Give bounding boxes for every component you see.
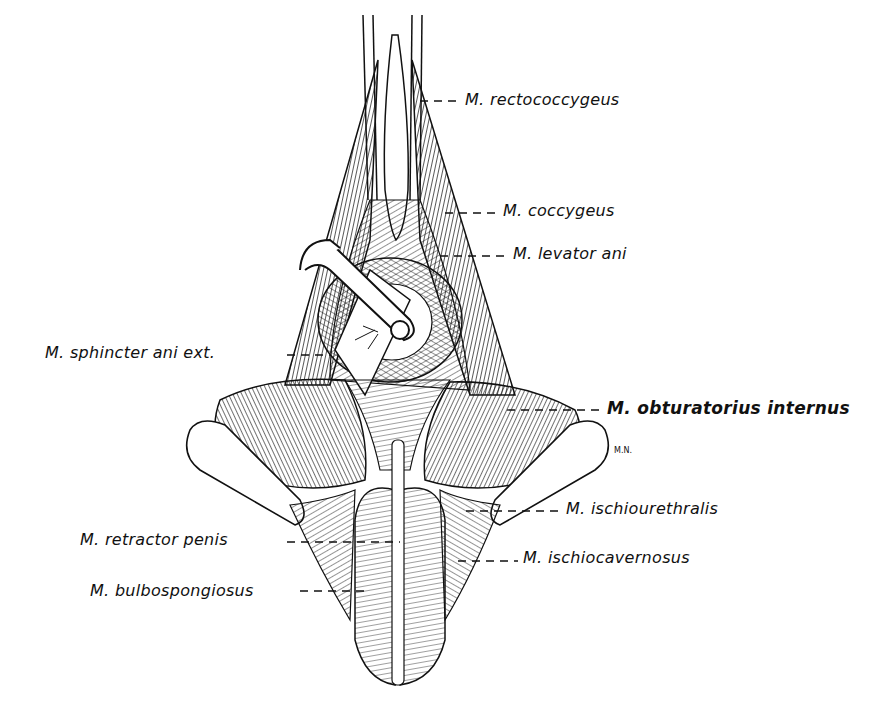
artist-signature: M.N. bbox=[614, 446, 632, 455]
anatomical-illustration bbox=[0, 0, 895, 726]
ischiocavernosus-right bbox=[440, 490, 500, 620]
label-sphincter-ani-ext: M. sphincter ani ext. bbox=[45, 345, 215, 361]
label-obturatorius-internus: M. obturatorius internus bbox=[607, 400, 850, 417]
bulbospongiosus-right bbox=[400, 488, 445, 685]
label-bulbospongiosus: M. bulbospongiosus bbox=[90, 583, 254, 599]
label-ischiourethralis: M. ischiourethralis bbox=[566, 501, 718, 517]
ischiocavernosus-left bbox=[290, 490, 355, 620]
bulbospongiosus-left bbox=[355, 488, 395, 685]
label-coccygeus: M. coccygeus bbox=[503, 203, 615, 219]
label-ischiocavernosus: M. ischiocavernosus bbox=[523, 550, 690, 566]
label-rectococcygeus: M. rectococcygeus bbox=[465, 92, 619, 108]
label-retractor-penis: M. retractor penis bbox=[80, 532, 228, 548]
retractor-penis-strip bbox=[392, 440, 404, 685]
label-levator-ani: M. levator ani bbox=[513, 246, 627, 262]
